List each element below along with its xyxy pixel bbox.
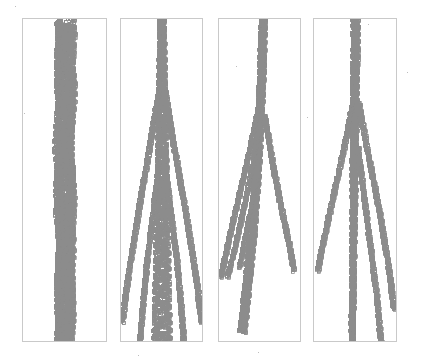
plot-panel-3	[218, 18, 301, 342]
plot-panel-4	[313, 18, 397, 342]
stray-speck	[236, 66, 237, 67]
stray-speck	[283, 212, 284, 213]
stray-speck	[258, 352, 259, 353]
stray-speck	[407, 72, 408, 73]
figure-root	[0, 0, 427, 362]
trajectory-canvas-2	[121, 19, 202, 341]
stray-speck	[138, 355, 139, 356]
stray-speck	[15, 6, 16, 7]
stray-speck	[307, 117, 308, 118]
plot-panel-2	[120, 18, 203, 342]
plot-panel-1	[22, 18, 107, 342]
panel-strip	[0, 0, 427, 362]
trajectory-canvas-3	[219, 19, 300, 341]
stray-speck	[24, 113, 25, 114]
trajectory-canvas-4	[314, 19, 396, 341]
stray-speck	[368, 24, 369, 25]
stray-speck	[55, 196, 56, 197]
trajectory-canvas-1	[23, 19, 106, 341]
